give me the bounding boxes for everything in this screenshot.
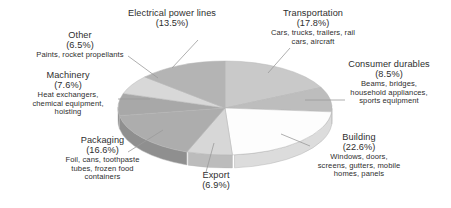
slice-label-electrical-pct: (13.5%): [107, 18, 237, 28]
slice-label-export-title: Export: [176, 170, 256, 180]
slice-label-packaging-detail: Foil, cans, toothpaste tubes, frozen foo…: [36, 156, 169, 182]
slice-label-other: Other (6.5%) Paints, rocket propellants: [10, 30, 150, 60]
slice-label-transportation-title: Transportation: [250, 8, 376, 18]
slice-label-machinery-title: Machinery: [8, 70, 128, 80]
detail-line: cars, aircraft: [250, 38, 376, 47]
slice-label-other-title: Other: [10, 30, 150, 40]
slice-label-other-detail: Paints, rocket propellants: [10, 51, 150, 60]
slice-label-packaging-title: Packaging: [36, 135, 169, 145]
slice-label-export: Export (6.9%): [176, 170, 256, 191]
detail-line: sports equipment: [330, 97, 448, 106]
slice-label-electrical-power-lines: Electrical power lines (13.5%): [107, 8, 237, 29]
slice-label-consumer-detail: Beams, bridges, household appliances, sp…: [330, 80, 448, 106]
detail-line: homes, panels: [295, 170, 423, 179]
slice-label-transportation: Transportation (17.8%) Cars, trucks, tra…: [250, 8, 376, 46]
slice-label-transportation-detail: Cars, trucks, trailers, rail cars, aircr…: [250, 29, 376, 47]
slice-label-packaging: Packaging (16.6%) Foil, cans, toothpaste…: [36, 135, 169, 182]
detail-line: Paints, rocket propellants: [10, 51, 150, 60]
slice-label-electrical-title: Electrical power lines: [107, 8, 237, 18]
pie-chart-figure: Other (6.5%) Paints, rocket propellants …: [0, 0, 451, 208]
slice-label-building-detail: Windows, doors, screens, gutters, mobile…: [295, 153, 423, 179]
slice-label-export-pct: (6.9%): [176, 180, 256, 190]
detail-line: containers: [36, 173, 169, 182]
slice-label-machinery: Machinery (7.6%) Heat exchangers, chemic…: [8, 70, 128, 117]
slice-label-machinery-detail: Heat exchangers, chemical equipment, hoi…: [8, 91, 128, 117]
detail-line: hoisting: [8, 108, 128, 117]
slice-label-building: Building (22.6%) Windows, doors, screens…: [295, 132, 423, 179]
slice-label-consumer-title: Consumer durables: [330, 59, 448, 69]
slice-label-consumer-durables: Consumer durables (8.5%) Beams, bridges,…: [330, 59, 448, 106]
slice-label-building-title: Building: [295, 132, 423, 142]
